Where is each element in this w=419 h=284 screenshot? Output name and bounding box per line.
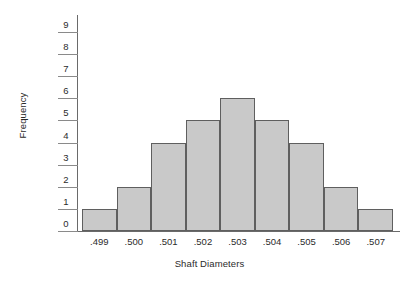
histogram-bar xyxy=(117,187,152,231)
histogram-bar xyxy=(255,120,290,231)
histogram-bar xyxy=(358,209,393,231)
histogram-bar xyxy=(324,187,359,231)
histogram-bar xyxy=(220,98,255,231)
histogram-bar xyxy=(151,143,186,231)
histogram-bar xyxy=(82,209,117,231)
histogram-bar xyxy=(186,120,221,231)
x-axis-tick-label: .507 xyxy=(353,236,399,247)
histogram-bar xyxy=(289,143,324,231)
histogram-chart: Frequency 0123456789 .499.500.501.502.50… xyxy=(0,0,419,284)
x-axis-title: Shaft Diameters xyxy=(0,258,419,269)
